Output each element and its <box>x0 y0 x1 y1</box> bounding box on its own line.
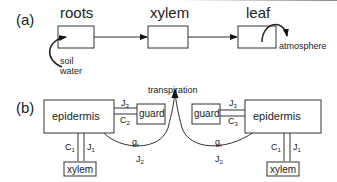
left-j3-label: J3 <box>121 98 130 109</box>
left-epidermis-label: epidermis <box>52 110 100 122</box>
leaf-label: leaf <box>246 4 271 21</box>
right-xylem-label: xylem <box>270 164 296 175</box>
right-c3-label: C3 <box>228 116 239 127</box>
xylem-box <box>148 26 188 48</box>
right-epidermis-label: epidermis <box>253 110 301 122</box>
left-j1-label: J1 <box>87 142 96 153</box>
panel-b: (b) transpiration epidermis guard J3 C2 … <box>16 85 321 176</box>
leaf-box <box>238 26 276 48</box>
panel-b-label: (b) <box>16 99 34 116</box>
left-j2-label: J2 <box>136 154 145 165</box>
panel-a-label: (a) <box>16 11 34 28</box>
roots-label: roots <box>60 4 93 21</box>
water-label: water <box>59 66 82 76</box>
plant-water-flow-diagram: (a) roots xylem leaf soil water atmosphe… <box>0 0 337 182</box>
right-j1-label: J1 <box>293 142 302 153</box>
left-xylem-label: xylem <box>67 164 93 175</box>
left-gt-label: gt <box>132 137 139 148</box>
left-leaf-model: epidermis guard J3 C2 C1 J1 xylem gt J2 <box>44 90 175 176</box>
transpiration-label: transpiration <box>148 85 198 95</box>
right-j3-label: J3 <box>229 98 238 109</box>
panel-a: (a) roots xylem leaf soil water atmosphe… <box>16 4 327 76</box>
soil-label: soil <box>60 56 74 66</box>
xylem-label: xylem <box>150 4 189 21</box>
left-c2-label: C2 <box>120 115 131 126</box>
right-c1-label: C1 <box>271 142 282 153</box>
right-j2-label: J2 <box>215 154 224 165</box>
atmosphere-label: atmosphere <box>279 41 327 51</box>
right-leaf-model: guard J3 C3 epidermis C1 J1 xylem gt J2 <box>172 88 322 176</box>
right-gt-label: gt <box>215 137 222 148</box>
left-guard-label: guard <box>139 108 165 119</box>
right-guard-label: guard <box>194 108 220 119</box>
left-c1-label: C1 <box>65 142 76 153</box>
